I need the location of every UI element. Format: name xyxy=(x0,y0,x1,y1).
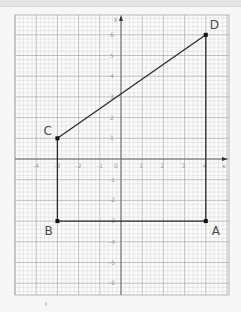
x-tick-label: 1 xyxy=(139,162,143,169)
point-label-a: A xyxy=(212,224,221,238)
point-label-d: D xyxy=(210,18,219,32)
point-label-b: B xyxy=(44,224,52,238)
x-tick-label: -2 xyxy=(76,162,82,169)
y-tick-label: 2 xyxy=(110,114,114,121)
y-tick-label: -6 xyxy=(109,279,115,286)
y-tick-label: -5 xyxy=(109,259,115,266)
y-tick-label: -1 xyxy=(109,176,115,183)
grid-lines xyxy=(15,15,229,295)
x-tick-label: 3 xyxy=(182,162,186,169)
point-b-marker-icon xyxy=(55,219,59,223)
x-tick-label: -1 xyxy=(97,162,103,169)
point-d-marker-icon xyxy=(204,33,208,37)
x-axis-label: x xyxy=(222,162,226,169)
x-tick-label: -4 xyxy=(33,162,39,169)
y-tick-label: -4 xyxy=(109,238,115,245)
point-label-c: C xyxy=(43,124,51,138)
point-c-marker-icon xyxy=(55,136,59,140)
x-tick-label: 0 xyxy=(114,162,118,169)
coordinate-grid: xy-4-3-2-101234654321-1-2-3-4-5-6 ABCD xyxy=(0,0,241,312)
y-tick-label: 1 xyxy=(110,134,114,141)
y-tick-label: 5 xyxy=(110,52,114,59)
y-tick-label: 6 xyxy=(110,31,114,38)
y-axis-label: y xyxy=(114,15,118,23)
y-tick-label: -2 xyxy=(109,196,115,203)
x-tick-label: 2 xyxy=(160,162,164,169)
y-tick-label: 4 xyxy=(110,72,114,79)
point-a-marker-icon xyxy=(204,219,208,223)
